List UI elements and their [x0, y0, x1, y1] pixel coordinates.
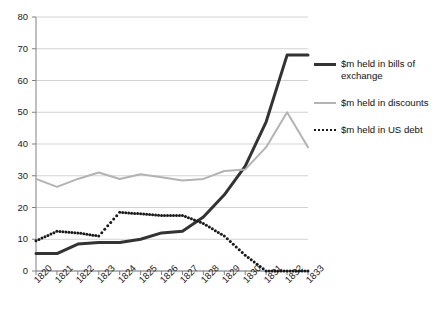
y-tick-label: 80 [2, 12, 28, 22]
y-tick-label: 50 [2, 107, 28, 117]
legend-label-us-debt: $m held in US debt [341, 124, 423, 136]
legend-item-us-debt: $m held in US debt [314, 124, 440, 136]
legend-item-discounts: $m held in discounts [314, 97, 440, 109]
y-tick-label: 0 [2, 266, 28, 276]
y-tick-label: 40 [2, 139, 28, 149]
chart-legend: $m held in bills of exchange $m held in … [314, 58, 440, 151]
legend-swatch-bills-of-exchange [314, 58, 336, 69]
y-tick-label: 10 [2, 234, 28, 244]
legend-item-bills-of-exchange: $m held in bills of exchange [314, 58, 440, 82]
data-series-layer [35, 55, 310, 272]
y-tick-label: 60 [2, 76, 28, 86]
legend-label-discounts: $m held in discounts [341, 97, 428, 109]
y-axis-ticks [32, 17, 36, 271]
y-tick-label: 30 [2, 171, 28, 181]
chart-container: 01020304050607080 1820182118221823182418… [0, 0, 440, 309]
legend-swatch-discounts [314, 97, 336, 108]
y-tick-label: 70 [2, 44, 28, 54]
legend-swatch-us-debt [314, 124, 336, 135]
legend-label-bills-of-exchange: $m held in bills of exchange [341, 58, 440, 82]
y-tick-label: 20 [2, 203, 28, 213]
